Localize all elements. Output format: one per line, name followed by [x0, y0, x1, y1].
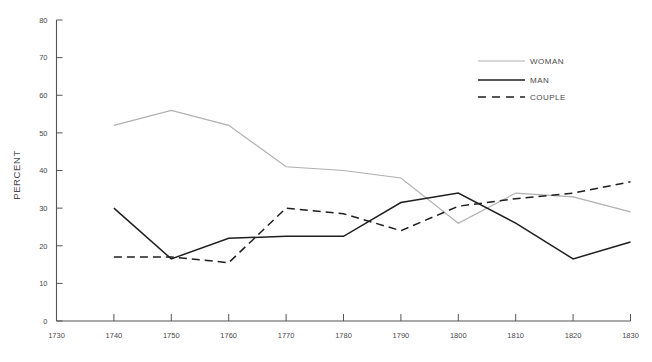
y-tick-label: 50: [39, 129, 47, 138]
y-tick-label: 10: [39, 279, 47, 288]
y-tick-label: 40: [39, 166, 47, 175]
x-tick-label: 1820: [565, 331, 582, 340]
y-tick-label: 0: [43, 317, 47, 326]
y-axis-group: 01020304050607080: [39, 16, 62, 326]
series-line-woman: [114, 110, 631, 223]
y-tick-label: 20: [39, 242, 47, 251]
y-axis-ticks: [57, 20, 63, 321]
series-group: [114, 110, 631, 262]
x-tick-label: 1780: [335, 331, 352, 340]
y-tick-label: 30: [39, 204, 47, 213]
series-line-couple: [114, 182, 631, 263]
x-tick-label: 1770: [278, 331, 295, 340]
legend: WOMANMANCOUPLE: [478, 57, 566, 102]
x-tick-label: 1740: [106, 331, 123, 340]
series-line-man: [114, 193, 631, 259]
chart-canvas: 01020304050607080 1730174017501760177017…: [0, 0, 652, 362]
x-tick-label: 1730: [48, 331, 65, 340]
y-tick-label: 60: [39, 91, 47, 100]
y-axis-title: PERCENT: [11, 150, 22, 200]
x-axis-tick-labels: 1730174017501760177017801790180018101820…: [48, 331, 639, 340]
x-tick-label: 1760: [220, 331, 237, 340]
x-tick-label: 1750: [163, 331, 180, 340]
legend-label-woman: WOMAN: [530, 57, 564, 66]
x-tick-label: 1800: [450, 331, 467, 340]
x-axis-ticks: [57, 314, 631, 321]
x-tick-label: 1790: [393, 331, 410, 340]
x-axis-group: 1730174017501760177017801790180018101820…: [48, 314, 639, 340]
legend-label-man: MAN: [530, 76, 549, 85]
y-axis-tick-labels: 01020304050607080: [39, 16, 47, 326]
y-tick-label: 80: [39, 16, 47, 25]
x-tick-label: 1830: [622, 331, 639, 340]
y-tick-label: 70: [39, 53, 47, 62]
line-chart: 01020304050607080 1730174017501760177017…: [0, 0, 652, 362]
legend-label-couple: COUPLE: [530, 93, 566, 102]
x-tick-label: 1810: [507, 331, 524, 340]
